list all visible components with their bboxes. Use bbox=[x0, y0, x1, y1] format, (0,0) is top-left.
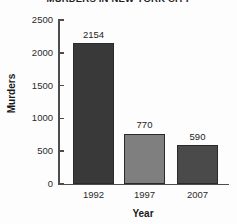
bar-chart: MURDERS IN NEW YORK CITY Murders 0500100… bbox=[0, 0, 237, 224]
x-axis-label-1997: 1997 bbox=[116, 190, 173, 200]
x-axis-label-1992: 1992 bbox=[65, 190, 122, 200]
plot-area bbox=[58, 20, 228, 184]
y-axis-tick-label: 2500 bbox=[13, 15, 53, 25]
y-axis-tick-label: 2000 bbox=[13, 48, 53, 58]
y-axis-tick-label: 1500 bbox=[13, 81, 53, 91]
bar-2007[interactable] bbox=[177, 145, 218, 184]
bar-value-label-1997: 770 bbox=[116, 120, 173, 130]
bar-value-label-2007: 590 bbox=[169, 132, 226, 142]
x-axis-label-2007: 2007 bbox=[169, 190, 226, 200]
x-axis-title: Year bbox=[58, 208, 228, 219]
chart-title: MURDERS IN NEW YORK CITY bbox=[0, 0, 237, 4]
bar-1997[interactable] bbox=[124, 134, 165, 185]
y-axis-tick-label: 500 bbox=[13, 146, 53, 156]
bar-1992[interactable] bbox=[73, 43, 114, 184]
y-axis-tick-label: 1000 bbox=[13, 113, 53, 123]
y-axis-tick-label: 0 bbox=[13, 179, 53, 189]
bar-value-label-1992: 2154 bbox=[65, 30, 122, 40]
